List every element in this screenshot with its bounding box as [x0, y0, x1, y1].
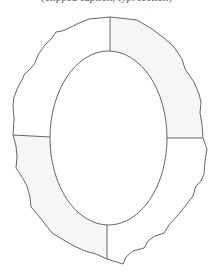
- segmented-ring-diagram: [0, 0, 213, 276]
- inner-ellipse: [50, 51, 167, 225]
